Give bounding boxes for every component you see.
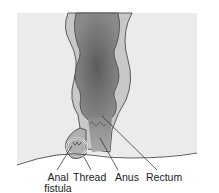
leader-thread	[84, 157, 91, 170]
label-anus: Anus	[115, 172, 139, 183]
label-thread: Thread	[73, 172, 106, 183]
rectum-illustration	[0, 0, 219, 193]
anal-canal	[88, 116, 112, 152]
anatomy-diagram: Anal fistula Thread Anus Rectum	[0, 0, 219, 193]
rectum-lumen	[74, 13, 119, 122]
label-rectum: Rectum	[146, 172, 182, 183]
